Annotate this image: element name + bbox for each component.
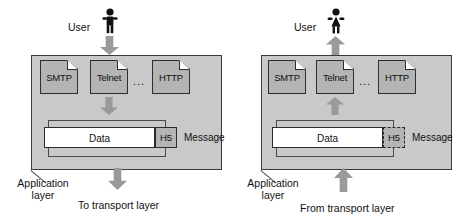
receiver-header-h5-label: H5 [388, 132, 400, 143]
sender-transport-label: To transport layer [78, 199, 159, 211]
receiver-protocol-http-label: HTTP [378, 72, 416, 83]
sender-user-label: User [68, 21, 90, 33]
receiver-protocol-smtp: SMTP [268, 60, 306, 94]
sender-app-to-transport-arrow [108, 168, 127, 190]
receiver-data-label: Data [273, 132, 382, 143]
diagram-canvas: User SMTP Telnet ... HTTP Data [0, 0, 472, 222]
receiver-protocol-ellipsis: ... [359, 76, 371, 87]
receiver-protocol-telnet: Telnet [316, 60, 354, 94]
receiver-header-h5: H5 [383, 127, 405, 148]
receiver-message-label: Message [412, 132, 453, 143]
sender-protocol-http-label: HTTP [152, 72, 190, 83]
sender-protocol-telnet: Telnet [90, 60, 128, 94]
sender-protocol-ellipsis: ... [133, 76, 145, 87]
person-female-icon [325, 8, 347, 34]
sender-message-bracket-top [48, 120, 166, 127]
sender-layer-label: Application layer [10, 177, 76, 201]
sender-header-h5-label: H5 [160, 132, 172, 143]
person-male-icon [100, 8, 120, 34]
receiver-message-bracket-bottom [276, 148, 394, 157]
receiver-layer-label: Application layer [240, 177, 306, 201]
receiver-protocol-telnet-label: Telnet [316, 72, 354, 83]
sender-message-bracket-bottom [48, 148, 166, 157]
sender-message-label: Message [184, 132, 225, 143]
receiver-data-box: Data [272, 127, 383, 148]
receiver-transport-to-app-arrow [334, 168, 353, 192]
receiver-transport-label: From transport layer [300, 202, 395, 214]
sender-protocol-http: HTTP [152, 60, 190, 94]
sender-header-h5: H5 [155, 127, 177, 148]
sender-user-to-app-arrow [100, 36, 119, 55]
receiver-protocol-http: HTTP [378, 60, 416, 94]
sender-protocol-smtp: SMTP [40, 60, 78, 94]
receiver-user-label: User [294, 21, 316, 33]
sender-protocol-telnet-label: Telnet [90, 72, 128, 83]
sender-data-box: Data [44, 127, 155, 148]
receiver-protocol-smtp-label: SMTP [268, 72, 306, 83]
receiver-message-bracket-top [276, 120, 394, 127]
sender-protocol-smtp-label: SMTP [40, 72, 78, 83]
sender-data-label: Data [45, 132, 154, 143]
receiver-app-to-user-arrow [326, 36, 345, 56]
